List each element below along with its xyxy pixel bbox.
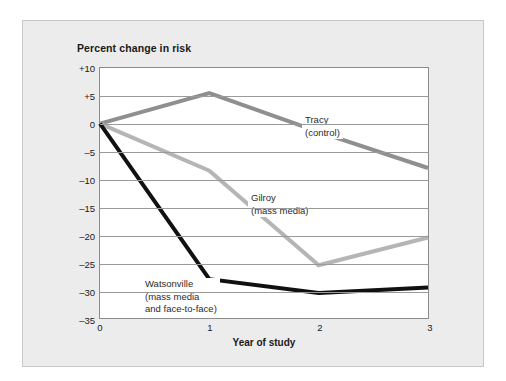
x-axis-tick-label: 2 xyxy=(317,322,322,333)
gridline xyxy=(100,152,428,153)
x-axis-tick-label: 3 xyxy=(427,322,432,333)
annotation-gilroy-line1: Gilroy xyxy=(251,192,309,205)
annotation-watsonville: Watsonville (mass media and face-to-face… xyxy=(142,278,220,316)
gridline xyxy=(100,236,428,237)
y-axis-tick-label: –25 xyxy=(79,259,95,270)
y-axis-tick-label: –20 xyxy=(79,231,95,242)
plot-area: Tracy (control) Gilroy (mass media) Wats… xyxy=(99,67,429,319)
gridline xyxy=(100,264,428,265)
y-axis-tick-label: –15 xyxy=(79,203,95,214)
x-axis-tick-label: 1 xyxy=(207,322,212,333)
x-axis-label: Year of study xyxy=(233,337,296,348)
gridline xyxy=(100,96,428,97)
annotation-tracy-line2: (control) xyxy=(305,127,340,140)
annotation-watsonville-line3: and face-to-face) xyxy=(145,303,217,316)
y-axis-tick-label: +10 xyxy=(79,63,95,74)
y-axis-tick-label: +5 xyxy=(84,91,95,102)
series-line xyxy=(100,93,428,168)
x-axis-tick-label: 0 xyxy=(97,322,102,333)
y-axis-tick-label: –10 xyxy=(79,175,95,186)
gridline xyxy=(100,180,428,181)
gridline xyxy=(100,208,428,209)
annotation-gilroy: Gilroy (mass media) xyxy=(248,192,312,217)
gridline xyxy=(100,124,428,125)
y-axis-tick-label: –30 xyxy=(79,287,95,298)
annotation-tracy: Tracy (control) xyxy=(302,114,343,139)
y-axis-tick-label: –5 xyxy=(84,147,95,158)
gridline xyxy=(100,292,428,293)
figure-panel: Percent change in risk Tracy (control) G… xyxy=(22,20,484,367)
annotation-gilroy-line2: (mass media) xyxy=(251,205,309,218)
y-axis-tick-label: 0 xyxy=(90,119,95,130)
chart-title: Percent change in risk xyxy=(77,42,191,54)
y-axis-tick-label: –35 xyxy=(79,315,95,326)
annotation-watsonville-line1: Watsonville xyxy=(145,278,217,291)
